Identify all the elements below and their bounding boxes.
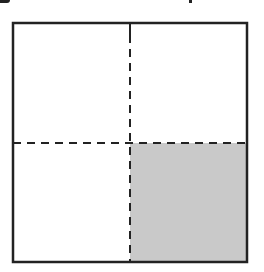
shaded-quadrant-bottom-right	[130, 143, 247, 262]
quartered-square-diagram	[0, 0, 264, 272]
